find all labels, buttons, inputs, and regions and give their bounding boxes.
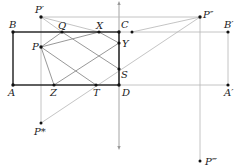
label-t: T [93, 87, 101, 98]
point-y [117, 41, 120, 44]
point-p-star [40, 122, 43, 125]
line-p1-x [41, 17, 99, 32]
label-p-triple-prime: P‴ [204, 156, 218, 167]
construction-lines [41, 17, 228, 161]
line-p-q [41, 32, 62, 47]
label-p: P [31, 41, 39, 52]
line-p-t [41, 47, 96, 85]
label-c: C [121, 19, 129, 30]
label-d: D [121, 87, 130, 98]
line-q-s [62, 32, 119, 69]
axis-arrow-down-icon [117, 146, 120, 150]
line-p-x [41, 32, 99, 47]
label-p-star: P* [33, 126, 46, 137]
point-b-prime [226, 30, 229, 33]
point-e [131, 31, 134, 34]
label-p-prime: P′ [34, 4, 45, 15]
points [11, 15, 229, 162]
point-p-double-prime [198, 15, 201, 18]
label-y: Y [122, 38, 130, 49]
path-lines [41, 32, 119, 85]
point-p [39, 45, 42, 48]
point-b [11, 30, 14, 33]
line-x-y [99, 32, 119, 43]
label-x: X [95, 20, 104, 31]
point-d [117, 83, 120, 86]
label-b-prime: B′ [223, 19, 234, 30]
label-p-double-prime: P″ [202, 9, 214, 20]
line-p-z [41, 47, 54, 85]
label-q: Q [58, 20, 66, 31]
label-s: S [121, 69, 128, 80]
label-b: B [8, 19, 16, 30]
point-c [117, 30, 120, 33]
line-p2-e [132, 17, 200, 32]
label-z: Z [49, 87, 58, 98]
label-a: A [7, 87, 15, 98]
reflection-diagram: B A C D P P′ P″ P‴ P* Q X Y S Z T B′ A′ [0, 0, 235, 168]
point-p-prime [39, 15, 42, 18]
label-a-prime: A′ [223, 87, 234, 98]
point-p-triple-prime [199, 160, 202, 163]
axis-arrow-up-icon [117, 1, 120, 5]
